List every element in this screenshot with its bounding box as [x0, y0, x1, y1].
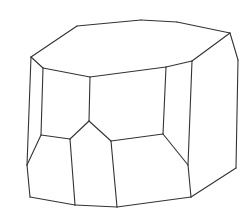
crystal-edge-R1-R2	[236, 60, 238, 168]
crystal-edge-M2-M3	[111, 134, 163, 141]
crystal-edge-T9-T1	[31, 57, 43, 68]
crystal-edge-M4-M3	[89, 121, 111, 141]
crystal-edge-T8-T9	[43, 68, 90, 77]
crystal-edge-T4-T5	[177, 22, 230, 33]
crystal-edge-T1-T2	[31, 26, 77, 57]
crystal-edge-T6-M1	[188, 61, 192, 165]
crystal-edge-T7-M2	[163, 67, 166, 134]
crystal-edge-T5-R1	[230, 33, 238, 60]
crystal-edge-T7-T8	[90, 67, 166, 77]
crystal-edge-T6-T7	[166, 61, 192, 67]
crystal-edge-T8-M4	[89, 77, 90, 121]
crystal-edge-M6-L1	[27, 135, 41, 165]
crystal-edge-M3-B3	[111, 141, 117, 207]
crystal-edge-M1-R3	[188, 165, 191, 197]
crystal-diagram	[0, 0, 249, 218]
crystal-edge-T5-T6	[192, 33, 230, 61]
crystal-edge-T3-T4	[141, 20, 177, 22]
crystal-edge-T1-L1	[27, 57, 31, 165]
crystal-edge-R2-R3	[191, 168, 236, 197]
crystal-edge-M5-M6	[41, 135, 70, 139]
crystal-drawing	[0, 0, 249, 218]
crystal-edge-T9-M6	[41, 68, 43, 135]
crystal-edge-M4-M5	[70, 121, 89, 139]
crystal-edge-T2-T3	[77, 20, 141, 26]
crystal-edge-B2-B3	[75, 205, 117, 207]
crystal-edge-B1-B2	[30, 197, 75, 205]
crystal-edge-M5-B2	[70, 139, 75, 205]
crystal-edge-M1-M2	[163, 134, 188, 165]
crystal-edge-B3-R3	[117, 197, 191, 207]
crystal-edge-L1-B1	[27, 165, 30, 197]
